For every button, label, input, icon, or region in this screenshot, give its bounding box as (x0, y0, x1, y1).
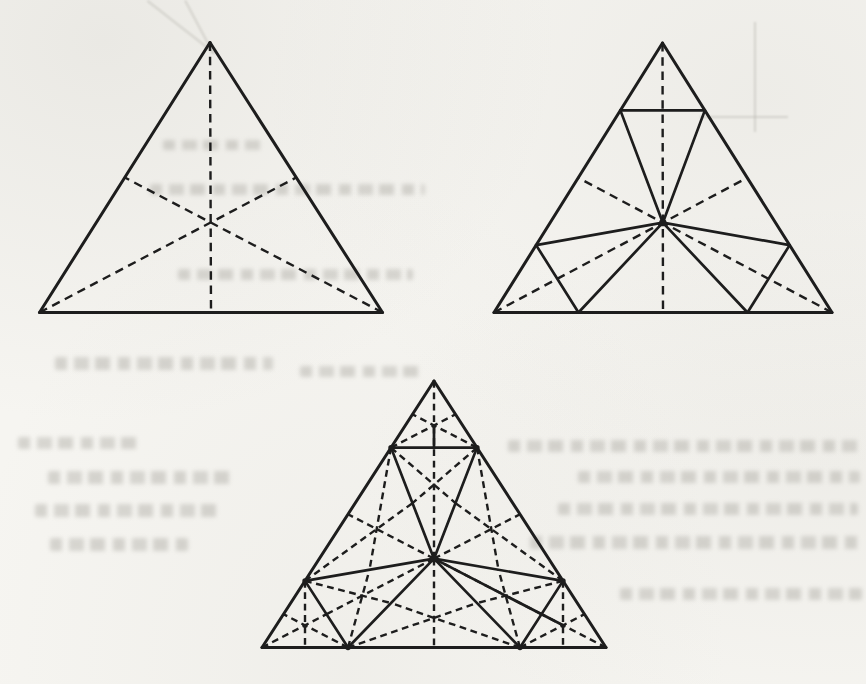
edge-line-solid (262, 381, 434, 648)
crease-line-dashed (125, 178, 383, 313)
junction-dot (517, 645, 522, 650)
edge-line-solid (40, 43, 211, 313)
junction-dot (560, 578, 565, 583)
figure-triangle-first-fold-pattern (494, 43, 832, 313)
crease-line-dashed (456, 503, 564, 581)
junction-dot (659, 219, 666, 226)
crease-line-dashed (40, 178, 297, 313)
edge-line-solid (210, 43, 383, 313)
crease-line-dashed (663, 43, 664, 313)
edge-line-solid (434, 448, 477, 559)
book-page (0, 0, 866, 684)
junction-dot (474, 445, 479, 450)
figure-triangle-with-dashed-medians (40, 43, 383, 313)
edge-line-solid (748, 245, 790, 312)
edge-line-solid (620, 110, 662, 222)
edge-line-solid (391, 448, 434, 559)
junction-dot (302, 578, 307, 583)
junction-dot (388, 445, 393, 450)
edge-line-solid (434, 381, 606, 648)
diagram-canvas (0, 0, 866, 684)
junction-dot (430, 555, 437, 562)
edge-line-solid (663, 110, 705, 222)
edge-line-solid (536, 245, 578, 312)
crease-line-dashed (494, 178, 747, 313)
crease-line-dashed (348, 603, 477, 647)
crease-line-dashed (348, 514, 434, 558)
crease-line-dashed (578, 178, 832, 313)
crease-line-dashed (305, 503, 413, 581)
junction-dot (345, 645, 350, 650)
crease-line-dashed (434, 514, 520, 558)
edge-line-solid (663, 43, 833, 313)
edge-line-solid (494, 43, 663, 313)
figure-triangle-second-fold-pattern (262, 381, 606, 650)
crease-line-dashed (391, 603, 520, 647)
crease-line-dashed (210, 43, 211, 313)
